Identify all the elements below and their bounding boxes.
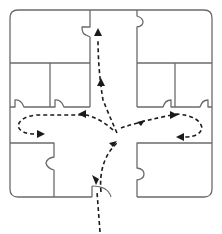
- room-bottom-left: [10, 143, 54, 197]
- room-bottom-right: [137, 143, 212, 197]
- arrow-head-icon: [94, 28, 102, 36]
- arrow-head-icon: [78, 110, 86, 118]
- outer-walls: [10, 10, 212, 197]
- path-entry-center: [101, 142, 118, 192]
- traffic-paths: [18, 28, 202, 232]
- arrow-head-icon: [37, 130, 45, 138]
- floor-plan: [0, 0, 222, 234]
- room-right-middle: [137, 63, 212, 107]
- arrow-head-icon: [92, 175, 99, 185]
- path-entry: [97, 192, 100, 232]
- arrow-head-icon: [170, 111, 178, 119]
- arrow-head-icon: [176, 133, 184, 141]
- room-left-middle: [10, 63, 90, 107]
- arrow-head-icon: [137, 120, 145, 126]
- path-to-right: [121, 114, 202, 137]
- arrow-head-icon: [97, 78, 105, 86]
- path-to-left: [18, 115, 113, 134]
